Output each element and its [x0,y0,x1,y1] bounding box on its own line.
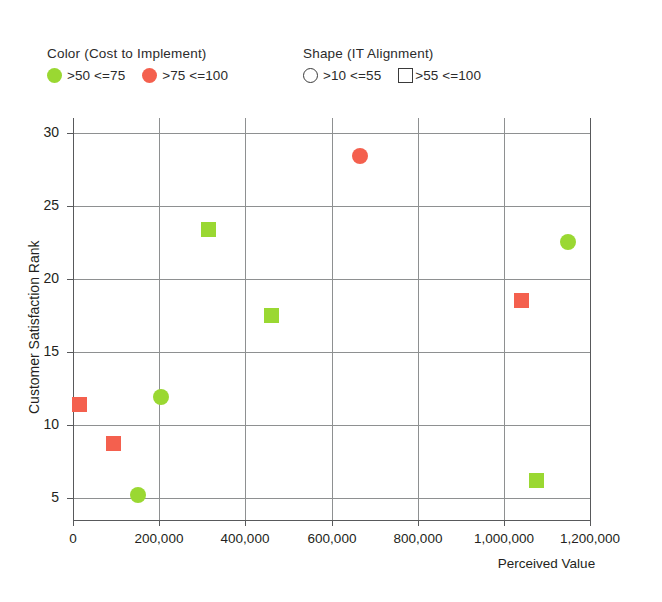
legend-color-entry-high[interactable]: >75 <=100 [142,68,228,83]
data-point-square[interactable] [529,473,544,488]
legend-color-title: Color (Cost to Implement) [47,46,228,61]
x-gridline [332,118,333,520]
x-tick-mark [73,520,74,526]
data-point-circle[interactable] [352,148,368,164]
x-tick-label: 200,000 [109,531,209,546]
y-tick-mark [67,425,73,426]
y-tick-label: 10 [19,416,59,432]
x-tick-label: 800,000 [368,531,468,546]
x-tick-label: 0 [23,531,123,546]
x-tick-mark [590,520,591,526]
y-tick-mark [67,352,73,353]
legend-shape-title: Shape (IT Alignment) [303,46,481,61]
y-tick-label: 20 [19,270,59,286]
x-tick-label: 600,000 [282,531,382,546]
x-tick-mark [245,520,246,526]
x-gridline [159,118,160,520]
legend-shape-entry-circle-label: >10 <=55 [323,68,381,83]
square-outline-swatch-icon [398,68,413,83]
legend-shape-entry-square[interactable]: >55 <=100 [398,68,481,83]
x-gridline [504,118,505,520]
legend-color-entry-low[interactable]: >50 <=75 [47,68,125,83]
x-tick-mark [159,520,160,526]
circle-outline-swatch-icon [303,68,318,83]
x-tick-label: 1,200,000 [540,531,640,546]
legend-color-entry-high-label: >75 <=100 [162,68,228,83]
y-tick-label: 5 [19,489,59,505]
data-point-square[interactable] [72,397,87,412]
x-tick-mark [332,520,333,526]
y-tick-label: 25 [19,197,59,213]
scatter-plot-figure: Color (Cost to Implement) >50 <=75 >75 <… [0,0,662,602]
y-tick-label: 15 [19,343,59,359]
legend-shape-entry-square-label: >55 <=100 [415,68,481,83]
y-gridline [73,352,590,353]
y-tick-mark [67,279,73,280]
y-tick-mark [67,133,73,134]
y-axis-title: Customer Satisfaction Rank [26,240,42,414]
x-tick-mark [504,520,505,526]
data-point-circle[interactable] [130,487,146,503]
y-gridline [73,498,590,499]
legend-shape-entries: >10 <=55 >55 <=100 [303,68,481,83]
legend-color-entry-low-label: >50 <=75 [67,68,125,83]
x-tick-label: 400,000 [195,531,295,546]
legend-shape-group: Shape (IT Alignment) >10 <=55 >55 <=100 [303,46,481,83]
legend-color-entries: >50 <=75 >75 <=100 [47,68,228,83]
legend-shape-entry-circle[interactable]: >10 <=55 [303,68,381,83]
red-circle-swatch-icon [142,68,157,83]
green-circle-swatch-icon [47,68,62,83]
y-tick-mark [67,206,73,207]
x-gridline [418,118,419,520]
plot-right-edge [590,118,591,521]
data-point-square[interactable] [201,222,216,237]
y-gridline [73,206,590,207]
y-gridline [73,425,590,426]
x-tick-mark [418,520,419,526]
y-axis-line [73,118,74,521]
x-axis-title: Perceived Value [498,556,595,571]
y-gridline [73,133,590,134]
y-tick-mark [67,498,73,499]
data-point-square[interactable] [264,308,279,323]
data-point-square[interactable] [514,293,529,308]
x-tick-label: 1,000,000 [454,531,554,546]
x-gridline [245,118,246,520]
data-point-square[interactable] [106,436,121,451]
legend-color-group: Color (Cost to Implement) >50 <=75 >75 <… [47,46,228,83]
y-gridline [73,279,590,280]
y-tick-label: 30 [19,124,59,140]
